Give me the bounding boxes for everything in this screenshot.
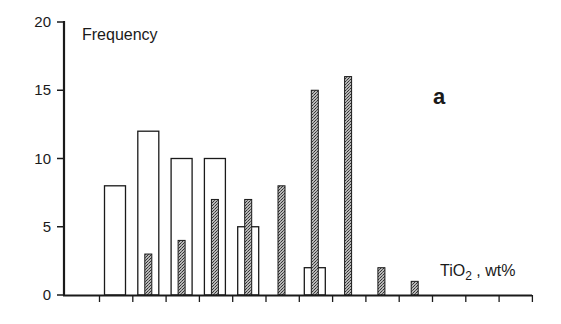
shaded-bar (178, 240, 185, 295)
shaded-bar (378, 268, 385, 295)
y-tick-label: 5 (43, 218, 51, 235)
shaded-bar (345, 77, 352, 295)
open-bar (105, 186, 126, 295)
y-tick-label: 15 (34, 81, 51, 98)
y-ticks: 05101520 (34, 13, 64, 303)
panel-label: a (433, 84, 446, 109)
y-tick-label: 0 (43, 286, 51, 303)
x-axis-title-units: , wt% (472, 262, 516, 279)
shaded-bar (278, 186, 285, 295)
shaded-bar (411, 281, 418, 295)
x-axis-title: TiO2 , wt% (440, 262, 515, 283)
histogram-chart: 05101520 Frequency a TiO2 , wt% (0, 0, 561, 324)
x-axis-title-main: TiO (440, 262, 465, 279)
y-tick-label: 20 (34, 13, 51, 30)
y-tick-label: 10 (34, 150, 51, 167)
shaded-bar (211, 199, 218, 295)
shaded-bar (311, 90, 318, 295)
shaded-bar (245, 199, 252, 295)
y-axis-title: Frequency (82, 26, 158, 43)
shaded-bar (145, 254, 152, 295)
